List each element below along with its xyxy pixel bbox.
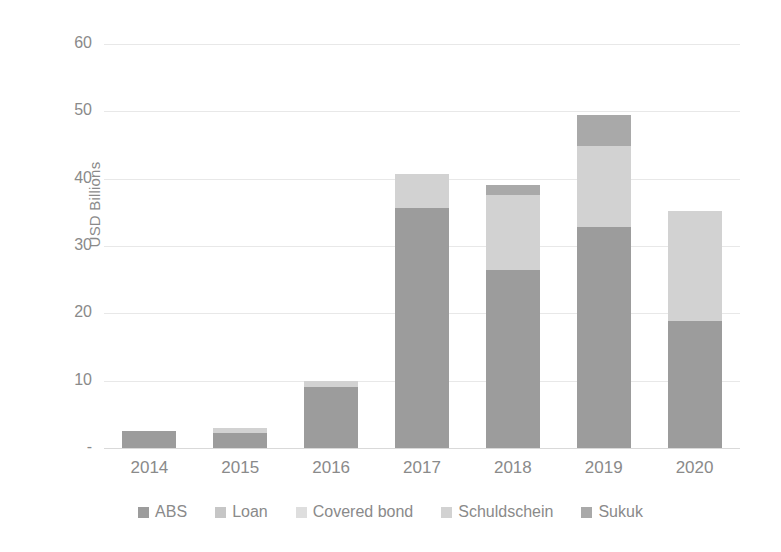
y-axis-tick-label: 30 bbox=[36, 237, 92, 253]
bar-2015[interactable] bbox=[213, 428, 267, 448]
bar-2016[interactable] bbox=[304, 381, 358, 448]
legend-item-loan[interactable]: Loan bbox=[215, 503, 268, 521]
legend-item-covered-bond[interactable]: Covered bond bbox=[296, 503, 414, 521]
legend-swatch-icon bbox=[138, 507, 149, 518]
bar-2018[interactable] bbox=[486, 185, 540, 448]
legend-label: Schuldschein bbox=[458, 503, 553, 521]
bar-segment-schuldschein[interactable] bbox=[304, 381, 358, 388]
bar-segment-abs[interactable] bbox=[577, 227, 631, 448]
y-axis-tick-label: 50 bbox=[36, 102, 92, 118]
x-axis-tick-label-2014: 2014 bbox=[104, 458, 194, 478]
y-axis-tick-label: - bbox=[36, 439, 92, 455]
chart-legend: ABSLoanCovered bondSchuldscheinSukuk bbox=[0, 503, 781, 521]
x-axis-tick-label-2018: 2018 bbox=[468, 458, 558, 478]
y-axis-tick-label: 40 bbox=[36, 170, 92, 186]
bar-segment-sukuk[interactable] bbox=[577, 115, 631, 146]
bar-segment-schuldschein[interactable] bbox=[486, 195, 540, 270]
stacked-bar-chart: USD Billions -102030405060 2014201520162… bbox=[0, 0, 781, 552]
legend-swatch-icon bbox=[215, 507, 226, 518]
gridline bbox=[104, 111, 740, 112]
y-axis-tick-label: 10 bbox=[36, 372, 92, 388]
plot-area bbox=[104, 44, 740, 448]
x-axis-tick-label-2016: 2016 bbox=[286, 458, 376, 478]
bar-segment-abs[interactable] bbox=[668, 321, 722, 448]
bar-segment-schuldschein[interactable] bbox=[668, 211, 722, 321]
bar-2014[interactable] bbox=[122, 431, 176, 448]
x-axis-tick-label-2015: 2015 bbox=[195, 458, 285, 478]
bar-segment-abs[interactable] bbox=[213, 433, 267, 448]
bar-segment-abs[interactable] bbox=[122, 431, 176, 448]
legend-label: Covered bond bbox=[313, 503, 414, 521]
bar-segment-schuldschein[interactable] bbox=[395, 174, 449, 208]
legend-label: ABS bbox=[155, 503, 187, 521]
legend-swatch-icon bbox=[441, 507, 452, 518]
gridline bbox=[104, 448, 740, 449]
bar-segment-abs[interactable] bbox=[395, 208, 449, 448]
bar-segment-abs[interactable] bbox=[486, 270, 540, 448]
bar-2019[interactable] bbox=[577, 115, 631, 448]
bar-2017[interactable] bbox=[395, 174, 449, 448]
x-axis-tick-label-2020: 2020 bbox=[650, 458, 740, 478]
y-axis-tick-label: 60 bbox=[36, 35, 92, 51]
gridline bbox=[104, 44, 740, 45]
bar-segment-schuldschein[interactable] bbox=[577, 146, 631, 227]
x-axis-tick-label-2017: 2017 bbox=[377, 458, 467, 478]
y-axis-tick-label: 20 bbox=[36, 304, 92, 320]
bar-2020[interactable] bbox=[668, 211, 722, 448]
y-axis-title: USD Billions bbox=[86, 125, 103, 285]
legend-swatch-icon bbox=[581, 507, 592, 518]
bar-segment-sukuk[interactable] bbox=[486, 185, 540, 195]
legend-swatch-icon bbox=[296, 507, 307, 518]
legend-item-abs[interactable]: ABS bbox=[138, 503, 187, 521]
x-axis-labels: 2014201520162017201820192020 bbox=[104, 458, 740, 486]
legend-item-schuldschein[interactable]: Schuldschein bbox=[441, 503, 553, 521]
x-axis-tick-label-2019: 2019 bbox=[559, 458, 649, 478]
legend-item-sukuk[interactable]: Sukuk bbox=[581, 503, 642, 521]
legend-label: Sukuk bbox=[598, 503, 642, 521]
bar-segment-abs[interactable] bbox=[304, 387, 358, 448]
legend-label: Loan bbox=[232, 503, 268, 521]
